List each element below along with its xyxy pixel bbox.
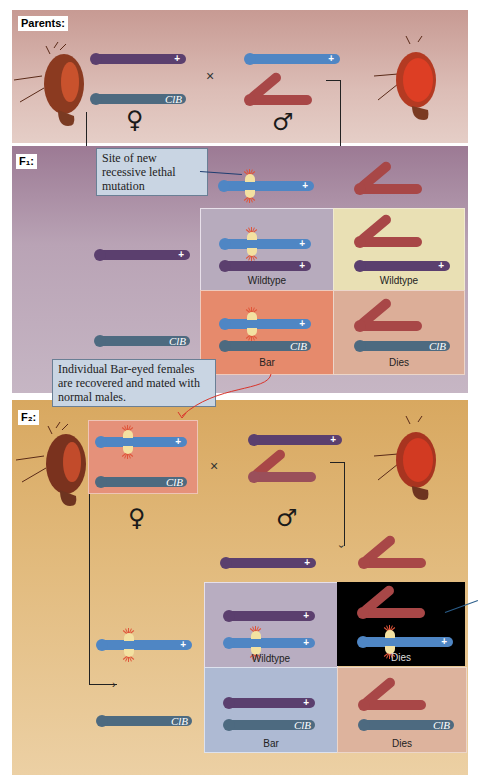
f2-gamete-y	[360, 538, 430, 568]
clb-marker: ClB	[166, 475, 183, 489]
mutation-site-icon	[385, 630, 395, 638]
f1-cell-wildtype-male: + Wildtype	[333, 208, 465, 291]
parent-female-x-clb: ClB	[92, 94, 186, 104]
male-symbol-icon: ♂	[276, 506, 298, 530]
parents-label: Parents:	[18, 16, 68, 31]
female-symbol-icon: ♀	[126, 108, 144, 132]
arrow-down-icon: ›	[336, 545, 347, 548]
wild-marker: +	[178, 248, 184, 262]
f2-cell-bar-female: + ClB Bar	[204, 667, 338, 753]
mutation-site-icon	[247, 232, 257, 240]
arrow-right-icon: ›	[112, 678, 116, 690]
f2-cell-dies-male: ClB Dies	[337, 667, 467, 753]
female-symbol-icon: ♀	[128, 506, 146, 530]
mutation-site-icon	[245, 174, 255, 182]
wild-marker: +	[441, 635, 447, 649]
male-symbol-icon: ♂	[272, 110, 294, 134]
f2-male-y-chromosome	[250, 452, 320, 482]
wild-marker: +	[304, 556, 310, 570]
mutation-site-callout: Site of new recessive lethal mutation	[96, 148, 208, 196]
f2-selected-bar-female-box: + ClB	[88, 420, 198, 494]
f2-cell-dies-male-highlighted: + Dies	[337, 582, 465, 666]
mutation-site-icon	[123, 430, 133, 438]
wild-marker: +	[180, 638, 186, 652]
clb-marker: ClB	[294, 718, 311, 732]
cell-label: Wildtype	[334, 275, 464, 286]
wild-marker: +	[328, 52, 334, 66]
wild-marker: +	[174, 52, 180, 66]
wild-marker: +	[303, 609, 309, 623]
clb-marker: ClB	[171, 714, 188, 728]
f1-cell-dies-male: ClB Dies	[333, 290, 465, 375]
f2-gamete-mutated-x: +	[98, 640, 192, 650]
wild-marker: +	[302, 179, 308, 193]
parent-female-x-wild: +	[92, 54, 186, 64]
wild-marker: +	[299, 317, 305, 331]
wild-marker: +	[299, 259, 305, 273]
mutation-site-icon	[251, 631, 261, 639]
cell-label: Dies	[334, 357, 464, 368]
cell-label: Bar	[201, 357, 333, 368]
clb-marker: ClB	[433, 718, 450, 732]
f1-x-clb: ClB	[96, 336, 190, 346]
connector-line	[330, 462, 344, 463]
cell-label: Dies	[338, 738, 466, 749]
connector-line	[326, 80, 340, 81]
cell-label: Dies	[337, 652, 465, 663]
red-arrow-icon	[176, 372, 276, 422]
female-fly-bar-eye-icon	[16, 420, 86, 510]
cell-label: Bar	[205, 738, 337, 749]
wild-marker: +	[303, 696, 309, 710]
cell-label: Wildtype	[201, 275, 333, 286]
f2-male-x-wild: +	[250, 435, 342, 445]
clb-marker: ClB	[290, 339, 307, 353]
connector-line	[344, 462, 345, 546]
parent-male-x-wild: +	[246, 54, 340, 64]
wild-marker: +	[438, 259, 444, 273]
f1-cell-bar-female: + ClB Bar	[200, 290, 334, 375]
parent-male-y-chromosome	[246, 75, 316, 105]
f1-mutated-x: +	[220, 181, 314, 191]
f2-gamete-x-wild: +	[222, 558, 316, 568]
f1-cell-wildtype-female: + + Wildtype	[200, 208, 334, 291]
cross-symbol: ×	[210, 458, 218, 474]
wild-marker: +	[175, 435, 181, 449]
mutation-site-icon	[247, 312, 257, 320]
wild-marker: +	[330, 433, 336, 447]
cell-label: Wildtype	[205, 653, 337, 664]
f2-cell-wildtype-female: + + Wildtype	[204, 582, 338, 668]
male-fly-wild-eye-icon	[366, 34, 446, 124]
female-fly-bar-eye-icon	[14, 40, 84, 130]
f2-gamete-x-clb: ClB	[98, 716, 192, 726]
f1-x-wild: +	[96, 250, 190, 260]
clb-marker: ClB	[429, 339, 446, 353]
male-fly-wild-eye-icon	[366, 414, 446, 504]
wild-marker: +	[303, 636, 309, 650]
wild-marker: +	[299, 237, 305, 251]
mutation-site-icon	[124, 633, 134, 641]
cross-symbol: ×	[206, 68, 214, 84]
f1-y-chromosome	[356, 164, 426, 194]
f1-label: F₁:	[16, 154, 37, 169]
connector-line	[89, 494, 90, 685]
clb-marker: ClB	[169, 334, 186, 348]
clb-marker: ClB	[165, 92, 182, 106]
